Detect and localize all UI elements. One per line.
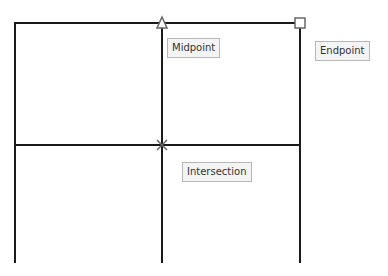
endpoint-tooltip: Endpoint [315, 41, 370, 61]
midpoint-tooltip: Midpoint [167, 38, 220, 58]
endpoint-square-icon [295, 18, 305, 28]
intersection-tooltip: Intersection [182, 162, 252, 182]
